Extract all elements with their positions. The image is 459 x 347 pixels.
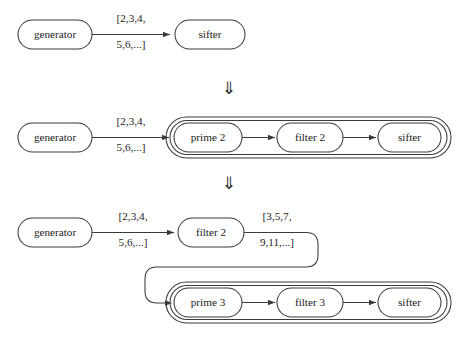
arrowhead-icon — [163, 32, 170, 37]
arrowhead-icon — [268, 135, 275, 140]
node-filter-2-stage-2: filter 2 — [277, 123, 343, 152]
node-prime-2-stage-2: prime 2 — [174, 123, 242, 152]
arrowhead-icon — [369, 300, 376, 305]
edge-filter-3-to-sifter-stage-3 — [343, 300, 376, 305]
node-generator-stage-1: generator — [18, 20, 92, 49]
node-label-prime-3: prime 3 — [191, 296, 226, 308]
diagram-canvas: generator [2,3,4, 5,6,...] sifter ⇓ gene — [0, 0, 459, 347]
node-generator-stage-3: generator — [18, 218, 92, 247]
node-sifter-stage-1: sifter — [175, 20, 245, 49]
node-filter-2-stage-3: filter 2 — [178, 218, 244, 247]
edge-label-line1: [2,3,4, — [117, 115, 146, 127]
separator-implies-1: ⇓ — [222, 78, 236, 98]
node-generator-stage-2: generator — [18, 123, 92, 152]
node-label-filter-2: filter 2 — [295, 131, 325, 143]
edge-filter-2-to-sifter-stage-2 — [343, 135, 376, 140]
node-label-sifter: sifter — [199, 28, 222, 40]
node-sifter-stage-3: sifter — [378, 288, 441, 317]
stage-2: generator [2,3,4, 5,6,...] prime 2 — [18, 115, 451, 158]
arrowhead-icon — [268, 300, 275, 305]
node-label-prime-2: prime 2 — [191, 131, 226, 143]
edge-generator-to-prime-2: [2,3,4, 5,6,...] — [92, 115, 169, 153]
edge-generator-to-sifter-stage-1: [2,3,4, 5,6,...] — [92, 12, 170, 50]
edge-label-line2: 9,11,...] — [260, 236, 294, 248]
edge-filter-2-to-prime-3: [3,5,7, 9,11,...] — [145, 210, 318, 306]
edge-prime-3-to-filter-3 — [242, 300, 275, 305]
arrowhead-icon — [167, 230, 174, 235]
node-label-sifter: sifter — [398, 131, 421, 143]
edge-label-line1: [2,3,4, — [117, 12, 146, 24]
edge-label-line1: [3,5,7, — [263, 210, 292, 222]
prime-sieve-figure: generator [2,3,4, 5,6,...] sifter ⇓ gene — [0, 0, 459, 347]
edge-prime-2-to-filter-2 — [242, 135, 275, 140]
node-label-generator: generator — [34, 28, 77, 40]
edge-label-line2: 5,6,...] — [117, 141, 146, 153]
separator-implies-2: ⇓ — [222, 173, 236, 193]
node-label-filter-3: filter 3 — [295, 296, 326, 308]
node-sifter-stage-2: sifter — [378, 123, 441, 152]
stage-1: generator [2,3,4, 5,6,...] sifter — [18, 12, 245, 50]
edge-label-line2: 5,6,...] — [119, 236, 148, 248]
node-label-filter-2: filter 2 — [196, 226, 226, 238]
arrowhead-icon — [369, 135, 376, 140]
node-prime-3-stage-3: prime 3 — [174, 288, 242, 317]
edge-label-line2: 5,6,...] — [117, 38, 146, 50]
node-filter-3-stage-3: filter 3 — [277, 288, 343, 317]
edge-label-line1: [2,3,4, — [119, 210, 148, 222]
node-label-generator: generator — [34, 131, 77, 143]
node-label-generator: generator — [34, 226, 77, 238]
edge-generator-to-filter-2-stage-3: [2,3,4, 5,6,...] — [92, 210, 174, 248]
stage-3: generator [2,3,4, 5,6,...] filter 2 [3,5… — [18, 210, 451, 323]
node-label-sifter: sifter — [398, 296, 421, 308]
